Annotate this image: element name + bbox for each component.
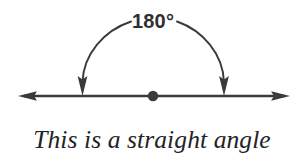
- straight-angle-figure: 180° This is a straight angle: [0, 0, 305, 159]
- vertex-dot: [148, 91, 158, 101]
- angle-measure-label: 180°: [132, 10, 174, 32]
- straight-angle-diagram: 180° This is a straight angle: [0, 0, 305, 159]
- figure-caption: This is a straight angle: [33, 125, 271, 154]
